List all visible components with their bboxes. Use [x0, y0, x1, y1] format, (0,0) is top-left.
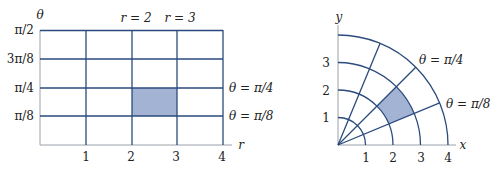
theta-pi-over-8-label: θ = π/8 [446, 97, 491, 111]
theta-tick-label: 3π/8 [7, 52, 34, 66]
x-tick-label: 3 [417, 151, 425, 165]
x-tick-label: 1 [362, 151, 370, 165]
r-theta-grid-diagram: π/2 3π/8 π/4 π/8 1 2 3 4 θ r r = 2 r = 3… [7, 8, 274, 164]
polar-coordinates-figure: π/2 3π/8 π/4 π/8 1 2 3 4 θ r r = 2 r = 3… [0, 0, 499, 174]
x-tick-label: 4 [444, 151, 452, 165]
theta-pi-over-8-label: θ = π/8 [229, 109, 274, 123]
theta-tick-label: π/2 [14, 23, 34, 37]
shaded-rectangle [132, 88, 177, 116]
r-axis-label: r [238, 138, 245, 152]
y-axis-label: y [335, 10, 343, 24]
polar-grid-diagram: 1 2 3 4 1 2 3 y x θ = π/4 θ = π/8 [322, 10, 490, 165]
r-tick-label: 1 [82, 150, 90, 164]
x-axis-label: x [460, 138, 467, 152]
theta-axis-label: θ [36, 8, 44, 22]
r-tick-label: 3 [172, 150, 180, 164]
theta-pi-over-4-label: θ = π/4 [229, 81, 273, 95]
r-tick-label: 2 [127, 150, 135, 164]
theta-tick-label: π/4 [14, 81, 34, 95]
shaded-polar-rectangle [377, 87, 414, 124]
theta-tick-label: π/8 [14, 109, 34, 123]
x-tick-label: 2 [389, 151, 397, 165]
theta-pi-over-4-label: θ = π/4 [419, 53, 463, 67]
r-equals-3-label: r = 3 [164, 11, 195, 25]
y-tick-label: 2 [322, 84, 330, 98]
y-tick-label: 1 [322, 111, 330, 125]
r-tick-label: 4 [218, 150, 226, 164]
r-equals-2-label: r = 2 [120, 11, 151, 25]
y-tick-label: 3 [322, 56, 330, 70]
